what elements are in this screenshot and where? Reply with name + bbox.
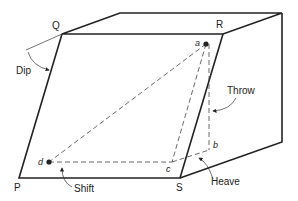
fault-plane-face <box>19 34 223 178</box>
throw-arrow <box>213 98 236 111</box>
corner-label-p: P <box>14 182 21 193</box>
point-label-b: b <box>213 140 218 150</box>
point-label-a: a <box>195 38 200 48</box>
corner-label-q: Q <box>52 20 60 31</box>
construction-lines <box>49 44 209 162</box>
point-label-d: d <box>38 157 44 167</box>
line-a-d <box>49 44 206 162</box>
point-d-dot <box>46 159 51 164</box>
dip-reference-line <box>26 34 62 50</box>
line-a-c <box>172 44 206 162</box>
throw-label: Throw <box>227 85 256 96</box>
dip-arc-arrow <box>28 52 49 70</box>
heave-label: Heave <box>211 176 240 187</box>
point-label-c: c <box>166 164 171 174</box>
corner-label-r: R <box>216 19 223 30</box>
shift-label: Shift <box>74 183 94 194</box>
corner-label-s: S <box>176 182 183 193</box>
dip-label: Dip <box>16 65 31 76</box>
top-face <box>62 13 282 34</box>
line-c-b <box>172 150 209 162</box>
fault-block-diagram: Q R P S a b c d Dip Throw Heave Shift <box>0 0 298 201</box>
point-a-dot <box>203 41 208 46</box>
